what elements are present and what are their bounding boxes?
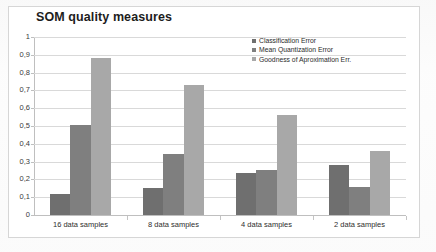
y-axis-tick-label: 1 bbox=[4, 33, 30, 41]
y-axis-tick-label: 0,8 bbox=[4, 69, 30, 77]
y-axis-tick-mark bbox=[31, 37, 34, 38]
legend-label: Goodness of Aproximation Err. bbox=[259, 55, 351, 64]
y-axis-tick-mark bbox=[31, 55, 34, 56]
legend-swatch-icon bbox=[252, 57, 256, 61]
y-axis-tick-mark bbox=[31, 179, 34, 180]
y-axis-tick-label: 0 bbox=[4, 211, 30, 219]
y-axis-tick-label: 0,6 bbox=[4, 104, 30, 112]
y-axis-tick-label: 0,2 bbox=[4, 175, 30, 183]
y-axis-tick-label: 0,3 bbox=[4, 158, 30, 166]
y-axis-tick-mark bbox=[31, 144, 34, 145]
bar[interactable] bbox=[50, 194, 71, 215]
chart-title: SOM quality measures bbox=[36, 10, 172, 24]
bar[interactable] bbox=[91, 58, 112, 215]
bar[interactable] bbox=[70, 125, 91, 215]
y-axis-tick-mark bbox=[31, 162, 34, 163]
bar[interactable] bbox=[277, 115, 298, 215]
x-axis-category-label: 4 data samples bbox=[220, 220, 313, 229]
chart-legend: Classification ErrorMean Quantization Er… bbox=[252, 36, 351, 64]
y-axis-tick-label: 0,4 bbox=[4, 140, 30, 148]
y-axis-tick-label: 0,7 bbox=[4, 86, 30, 94]
y-axis-tick-label: 0,5 bbox=[4, 122, 30, 130]
bar-group bbox=[143, 37, 205, 215]
legend-label: Mean Quantization Error bbox=[259, 45, 333, 54]
x-axis-category-label: 16 data samples bbox=[34, 220, 127, 229]
legend-item[interactable]: Goodness of Aproximation Err. bbox=[252, 55, 351, 64]
x-axis-category-label: 2 data samples bbox=[313, 220, 406, 229]
y-axis-tick-label: 0,1 bbox=[4, 193, 30, 201]
bar[interactable] bbox=[349, 187, 370, 215]
legend-swatch-icon bbox=[252, 39, 256, 43]
bar[interactable] bbox=[184, 85, 205, 215]
legend-swatch-icon bbox=[252, 48, 256, 52]
y-axis-tick-label: 0,9 bbox=[4, 51, 30, 59]
bar[interactable] bbox=[143, 188, 164, 215]
x-axis-category-label: 8 data samples bbox=[127, 220, 220, 229]
x-axis-tick-mark bbox=[406, 216, 407, 220]
legend-item[interactable]: Mean Quantization Error bbox=[252, 45, 351, 54]
bar[interactable] bbox=[370, 151, 391, 215]
bar-group bbox=[50, 37, 112, 215]
y-axis-tick-mark bbox=[31, 73, 34, 74]
legend-label: Classification Error bbox=[259, 36, 316, 45]
y-axis-tick-mark bbox=[31, 197, 34, 198]
bar[interactable] bbox=[329, 165, 350, 215]
legend-item[interactable]: Classification Error bbox=[252, 36, 351, 45]
y-axis-tick-mark bbox=[31, 90, 34, 91]
y-axis-labels: 10,90,80,70,60,50,40,30,20,10 bbox=[0, 37, 30, 215]
bar[interactable] bbox=[163, 154, 184, 215]
bar[interactable] bbox=[256, 170, 277, 215]
y-axis-tick-mark bbox=[31, 108, 34, 109]
chart-page: SOM quality measures 10,90,80,70,60,50,4… bbox=[0, 0, 436, 252]
y-axis-tick-mark bbox=[31, 126, 34, 127]
bar[interactable] bbox=[236, 173, 257, 215]
y-axis-tick-mark bbox=[31, 215, 34, 216]
